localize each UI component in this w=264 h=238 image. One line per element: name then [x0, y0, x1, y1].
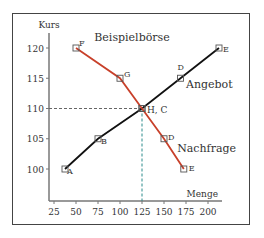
- x-tick-label: 175: [177, 207, 194, 217]
- x-tick-label: 150: [155, 207, 172, 217]
- x-tick-label: 125: [133, 207, 150, 217]
- point-label: E: [189, 164, 195, 173]
- point-label: B: [101, 137, 107, 146]
- y-tick-label: 115: [27, 74, 44, 84]
- series-label: Nachfrage: [177, 142, 236, 155]
- x-tick-label: 200: [199, 207, 216, 217]
- chart-title: Beispielbörse: [94, 31, 169, 44]
- y-tick-label: 110: [27, 104, 44, 114]
- x-tick-label: 25: [48, 207, 60, 217]
- chart: 100105110115120255075100125150175200Kurs…: [0, 0, 264, 238]
- x-tick-label: 50: [70, 207, 82, 217]
- series-label: Angebot: [185, 78, 233, 91]
- equilibrium-label: H, C: [147, 105, 168, 115]
- x-tick-label: 75: [92, 207, 104, 217]
- point-label: F: [79, 39, 85, 48]
- y-tick-label: 100: [27, 165, 44, 175]
- y-axis-label: Kurs: [38, 20, 60, 30]
- point-label: E: [223, 45, 229, 54]
- y-tick-label: 105: [27, 134, 44, 144]
- point-label: A: [66, 167, 73, 176]
- point-label: D: [178, 63, 184, 72]
- y-tick-label: 120: [27, 44, 44, 54]
- point-label: G: [124, 70, 130, 79]
- point-label: D: [168, 133, 174, 142]
- x-tick-label: 100: [111, 207, 128, 217]
- x-axis-label: Menge: [187, 189, 218, 199]
